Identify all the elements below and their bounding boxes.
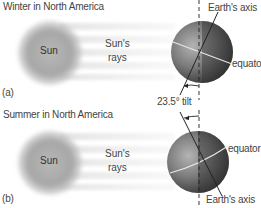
rays-label-b-line1: Sun's	[105, 147, 130, 161]
earth-a	[171, 21, 233, 83]
panel-b-letter: (b)	[2, 193, 14, 204]
equator-label-b: equator	[228, 143, 261, 154]
rays-label-a-line1: Sun's	[105, 37, 130, 51]
rays-label-b-line2: rays	[105, 161, 130, 175]
sun-label-b: Sun	[40, 155, 58, 166]
sun-label-a: Sun	[40, 45, 58, 56]
panel-a-title: Winter in North America	[3, 1, 104, 12]
rays-label-b: Sun's rays	[105, 147, 130, 175]
earth-axis-label-b: Earth's axis	[206, 194, 255, 205]
rays-label-a-line2: rays	[105, 51, 130, 65]
seasons-diagram	[0, 0, 261, 208]
equator-label-a: equator	[232, 58, 261, 69]
earth-axis-label-a: Earth's axis	[208, 2, 257, 13]
panel-b-title: Summer in North America	[3, 109, 113, 120]
tilt-label: 23.5° tilt	[157, 96, 191, 107]
rays-label-a: Sun's rays	[105, 37, 130, 65]
panel-a-letter: (a)	[2, 87, 14, 98]
earth-b	[167, 131, 229, 193]
